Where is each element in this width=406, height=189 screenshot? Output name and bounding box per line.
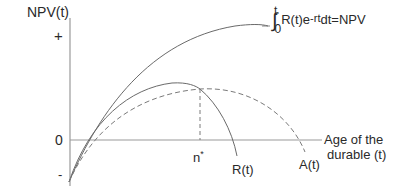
x-axis-label-line1: Age of the — [324, 133, 383, 147]
x-axis-label-line2: durable (t) — [327, 148, 386, 162]
zero-marker: 0 — [55, 133, 63, 147]
npv-integral-curve — [69, 25, 268, 183]
minus-marker: - — [58, 168, 62, 182]
a-curve-label: A(t) — [299, 158, 320, 172]
n-star-label: n* — [193, 147, 204, 165]
formula-rest: dt=NPV — [320, 12, 365, 27]
n-star-superscript: * — [200, 149, 204, 159]
exponent: -rt — [310, 12, 320, 24]
plus-marker: + — [54, 29, 63, 43]
integral-lower-limit: 0 — [274, 22, 281, 36]
y-axis-label: NPV(t) — [27, 5, 69, 19]
npv-formula: t ∫0R(t)e-rtdt=NPV — [272, 6, 366, 29]
a-curve — [69, 89, 305, 182]
r-curve-label: R(t) — [232, 163, 254, 177]
r-curve — [69, 83, 237, 182]
integrand: R(t)e — [281, 12, 310, 27]
